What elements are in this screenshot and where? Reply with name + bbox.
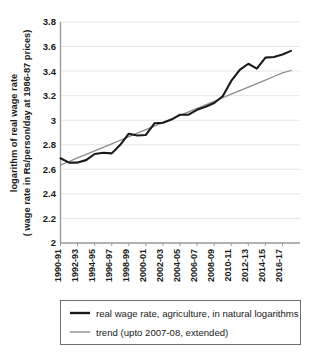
y-axis-title-line1: logarithm of real wage rate	[9, 74, 19, 192]
legend-item-trend: trend (upto 2007-08, extended)	[70, 327, 228, 338]
legend-label-trend: trend (upto 2007-08, extended)	[96, 327, 228, 338]
y-axis-tick-label: 3.4	[43, 66, 57, 77]
y-axis-tick-label: 3.6	[43, 41, 56, 52]
y-axis-tick-label: 2.8	[43, 139, 56, 150]
x-axis-tick-label: 2004-05	[172, 249, 182, 282]
y-axis-tick-label: 2	[51, 237, 56, 248]
legend-item-real-wage-rate: real wage rate, agriculture, in natural …	[70, 308, 299, 319]
series-real-wage-rate-line	[61, 51, 292, 163]
y-axis-tick-label: 2.6	[43, 164, 56, 175]
x-axis-tick-label: 2006-07	[189, 249, 199, 282]
y-axis-tick-label: 3.2	[43, 90, 56, 101]
x-axis-tick-label: 2014-15	[257, 249, 267, 282]
y-axis-title: logarithm of real wage rate ( wage rate …	[9, 30, 32, 237]
x-axis-tick-label: 2010-11	[223, 249, 233, 282]
y-axis-ticks: 22.22.42.62.833.23.43.63.8	[43, 16, 57, 248]
x-axis-tick-label: 2012-13	[240, 249, 250, 282]
x-axis-tick-label: 1996-97	[104, 249, 114, 282]
y-axis-tick-label: 3.8	[43, 16, 56, 27]
y-axis-tick-label: 2.4	[43, 188, 57, 199]
real-wage-rate-line-chart: logarithm of real wage rate ( wage rate …	[0, 0, 309, 354]
x-axis-tick-label: 1998-99	[121, 249, 131, 282]
x-axis-ticks: 1990-911992-931994-951996-971998-992000-…	[53, 243, 285, 282]
x-axis-tick-label: 2008-09	[206, 249, 216, 282]
x-axis-tick-label: 2000-01	[138, 249, 148, 282]
y-axis-title-line2: ( wage rate in Rs/person/day at 1986-87 …	[22, 30, 32, 237]
legend-label-real-wage-rate: real wage rate, agriculture, in natural …	[96, 308, 299, 319]
x-axis-tick-label: 2016-17	[274, 249, 284, 282]
x-axis-tick-label: 1992-93	[70, 249, 80, 282]
gridlines	[61, 22, 301, 218]
chart-container: logarithm of real wage rate ( wage rate …	[0, 0, 309, 354]
x-axis-tick-label: 1990-91	[53, 249, 63, 282]
y-axis-tick-label: 2.2	[43, 213, 56, 224]
x-axis-tick-label: 1994-95	[87, 249, 97, 282]
x-axis-tick-label: 2002-03	[155, 249, 165, 282]
y-axis-tick-label: 3	[51, 115, 56, 126]
